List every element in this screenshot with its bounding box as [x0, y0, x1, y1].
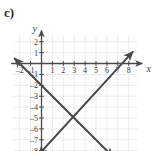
- y-tick-label: –1: [29, 70, 38, 79]
- x-tick-label: –2: [15, 66, 24, 75]
- y-tick-label: –8: [29, 147, 38, 151]
- y-tick-label: –6: [29, 125, 38, 134]
- x-tick-label: 4: [83, 66, 87, 75]
- x-axis-label: x: [145, 63, 151, 74]
- coordinate-plane: –2–11234567821–1–2–3–4–5–6–7–8 x y: [0, 0, 152, 151]
- y-tick-label: –5: [29, 114, 38, 123]
- x-tick-label: 2: [61, 66, 65, 75]
- y-tick-label: –2: [29, 81, 38, 90]
- x-tick-label: 1: [50, 66, 54, 75]
- y-tick-label: –4: [29, 103, 38, 112]
- x-tick-label: 5: [94, 66, 98, 75]
- x-tick-label: 3: [72, 66, 76, 75]
- y-tick-label: 2: [34, 38, 38, 47]
- x-tick-label: 8: [127, 66, 131, 75]
- y-tick-label: 1: [34, 49, 38, 58]
- y-axis-label: y: [32, 23, 38, 34]
- y-tick-label: –3: [29, 92, 38, 101]
- x-tick-label: 6: [105, 66, 109, 75]
- y-tick-label: –7: [29, 136, 38, 145]
- x-tick-label: 7: [116, 66, 120, 75]
- tick-labels: –2–11234567821–1–2–3–4–5–6–7–8: [15, 38, 131, 151]
- graph-figure: c) –2–11234567821–1–2–3–4–5–6–7–8 x y: [0, 0, 152, 151]
